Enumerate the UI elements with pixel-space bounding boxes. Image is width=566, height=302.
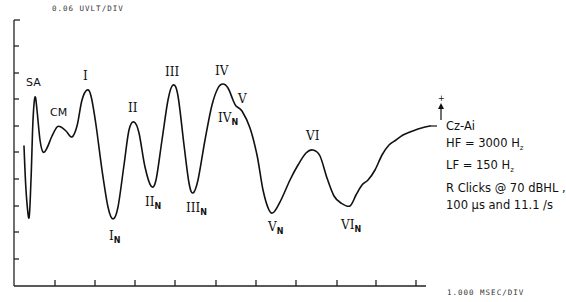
peak-label-i: I — [83, 69, 88, 83]
trough-label-ii-n: IIN — [145, 195, 161, 211]
svg-text:IN: IN — [109, 229, 120, 245]
peak-label-cm: CM — [50, 106, 67, 119]
low-filter-label: LF = 150 Hz — [446, 157, 566, 179]
svg-text:+: + — [438, 94, 445, 103]
svg-text:IVN: IVN — [218, 111, 238, 127]
trough-label-iii-n: IIIN — [186, 201, 207, 217]
trough-label-i-n: IN — [109, 229, 120, 245]
trough-label-v-n: VN — [267, 220, 283, 236]
x-scale-label: 1.000 MSEC/DIV — [447, 288, 524, 297]
abr-waveform-trace — [24, 84, 430, 219]
polarity-arrow-icon: + — [438, 94, 445, 120]
peak-label-iii: III — [165, 65, 179, 79]
trough-label-vi-n: VIN — [340, 218, 361, 234]
high-filter-label: HF = 3000 Hz — [446, 135, 566, 157]
peak-label-v: V — [237, 92, 247, 106]
svg-text:VN: VN — [267, 220, 283, 236]
recording-parameters: Cz-Ai HF = 3000 Hz LF = 150 Hz R Clicks … — [446, 118, 566, 214]
peak-label-ii: II — [128, 101, 138, 115]
peak-label-iv: IV — [215, 64, 229, 78]
svg-text:IIN: IIN — [145, 195, 161, 211]
stimulus-label: R Clicks @ 70 dBHL , — [446, 180, 566, 197]
svg-text:IIIN: IIIN — [186, 201, 207, 217]
trough-label-iv-n: IVN — [218, 111, 238, 127]
peak-label-vi: VI — [305, 129, 320, 143]
y-scale-label: 0.06 UVLT/DIV — [52, 4, 124, 13]
peak-label-sa: SA — [26, 76, 41, 89]
svg-text:VIN: VIN — [340, 218, 361, 234]
duration-rate-label: 100 µs and 11.1 /s — [446, 197, 566, 214]
x-axis — [14, 280, 426, 286]
montage-label: Cz-Ai — [446, 118, 566, 135]
y-axis — [14, 20, 20, 286]
